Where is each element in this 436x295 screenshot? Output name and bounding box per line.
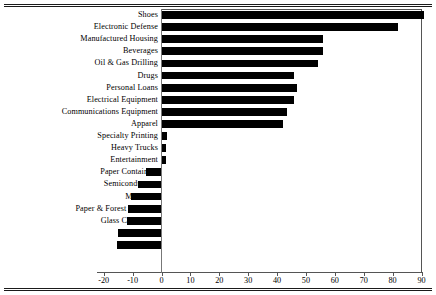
bar [162,23,399,31]
bar-row: Paper Containers [0,166,436,178]
bar-row: Steel [0,227,436,239]
bar [162,108,288,116]
bar-row: Personal Loans [0,82,436,94]
x-axis-tick-label: 10 [186,276,194,286]
bar-row: Communications Equipment [0,106,436,118]
bar-category-label: Drugs [137,70,158,82]
x-axis-tick-label: 30 [244,276,252,286]
bar-row: Glass Containers [0,215,436,227]
bar-category-label: Entertainment [110,154,158,166]
bar-category-label: Manufactured Housing [80,33,158,45]
bar-category-label: Specialty Printing [97,130,158,142]
bar-category-label: Personal Loans [106,82,158,94]
bar-row: Machines [0,191,436,203]
bar-category-label: Oil & Gas Drilling [95,57,158,69]
bar [162,35,324,43]
bar-category-label: Communications Equipment [62,106,158,118]
bar-rows: ShoesElectronic DefenseManufactured Hous… [0,0,436,264]
bar [162,60,318,68]
bar-chart-figure: ShoesElectronic DefenseManufactured Hous… [0,0,436,295]
bar-row: Oil & Gas Drilling [0,57,436,69]
x-axis-tick-label: 40 [273,276,281,286]
bar [117,241,162,249]
bar [118,229,161,237]
bar-row: Manufactured Housing [0,33,436,45]
bar [128,205,161,213]
bar [146,168,162,176]
x-axis: -20-100102030405060708090 [0,272,436,292]
bar-category-label: Electrical Equipment [87,94,158,106]
bar-category-label: Heavy Trucks [111,142,158,154]
bar-row: Truckers [0,239,436,251]
bar-category-label: Apparel [131,118,158,130]
bar-row: Drugs [0,70,436,82]
bar-row: Specialty Printing [0,130,436,142]
bar-row: Heavy Trucks [0,142,436,154]
bar [162,84,298,92]
bar [162,120,283,128]
bar-row: Beverages [0,45,436,57]
x-axis-tick-label: -10 [127,276,138,286]
bar-row: Paper & Forest Products [0,203,436,215]
x-axis-tick-label: 50 [302,276,310,286]
x-axis-tick-label: 20 [215,276,223,286]
x-axis-tick-label: -20 [98,276,109,286]
bar [162,156,166,164]
bar [162,132,168,140]
bar-category-label: Shoes [138,9,158,21]
bar-row: Semiconductors [0,178,436,190]
bar [131,193,161,201]
bar-row: Electronic Defense [0,21,436,33]
bar-row: Entertainment [0,154,436,166]
bar-category-label: Electronic Defense [94,21,158,33]
bar [127,217,162,225]
bar-row: Apparel [0,118,436,130]
bar-row: Shoes [0,9,436,21]
bar [162,144,166,152]
bar [162,96,295,104]
x-axis-tick-label: 90 [417,276,425,286]
bar [162,11,425,19]
bar [138,181,161,189]
x-axis-tick-label: 0 [159,276,163,286]
bar [162,72,295,80]
x-axis-tick-label: 70 [360,276,368,286]
bar-category-label: Beverages [123,45,158,57]
bar-row: Electrical Equipment [0,94,436,106]
x-axis-tick-label: 80 [389,276,397,286]
x-axis-tick-label: 60 [331,276,339,286]
bar [162,47,324,55]
